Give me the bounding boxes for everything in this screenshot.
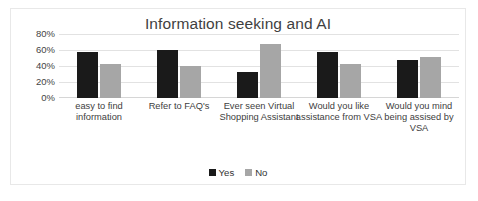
y-axis-tick-label: 80% [36, 29, 55, 39]
legend-label: Yes [219, 167, 235, 178]
category-label: Ever seen Virtual Shopping Assistant [215, 101, 303, 123]
legend-item-yes[interactable]: Yes [209, 167, 235, 178]
black-square-icon [209, 169, 216, 176]
bar-yes[interactable] [77, 52, 98, 98]
legend-item-no[interactable]: No [245, 167, 267, 178]
y-axis-tick-label: 60% [36, 45, 55, 55]
bar-yes[interactable] [157, 50, 178, 98]
y-axis-tick-label: 40% [36, 61, 55, 71]
y-axis-tick-label: 20% [36, 77, 55, 87]
bar-group [299, 34, 379, 98]
bar-no[interactable] [180, 66, 201, 98]
category-axis-labels: easy to find informationRefer to FAQ'sEv… [59, 101, 459, 149]
category-label: easy to find information [55, 101, 143, 123]
chart-legend: YesNo [11, 167, 465, 178]
chart-container: Information seeking and AI 80%60%40%20%0… [10, 8, 466, 185]
bar-group [59, 34, 139, 98]
bar-group [379, 34, 459, 98]
bar-yes[interactable] [397, 60, 418, 98]
category-label: Would you mind being assised by VSA [375, 101, 463, 135]
bar-no[interactable] [100, 64, 121, 98]
y-axis-tick-label: 0% [41, 93, 55, 103]
bar-no[interactable] [340, 64, 361, 98]
category-label: Would you like assistance from VSA [295, 101, 383, 123]
bar-yes[interactable] [237, 72, 258, 98]
bar-group [219, 34, 299, 98]
category-label: Refer to FAQ's [135, 101, 223, 112]
bar-yes[interactable] [317, 52, 338, 98]
bars-layer [59, 34, 459, 98]
gray-square-icon [245, 169, 252, 176]
bar-group [139, 34, 219, 98]
bar-no[interactable] [420, 57, 441, 98]
legend-label: No [255, 167, 267, 178]
bar-no[interactable] [260, 44, 281, 98]
y-axis: 80%60%40%20%0% [19, 27, 55, 105]
chart-title: Information seeking and AI [11, 15, 465, 33]
